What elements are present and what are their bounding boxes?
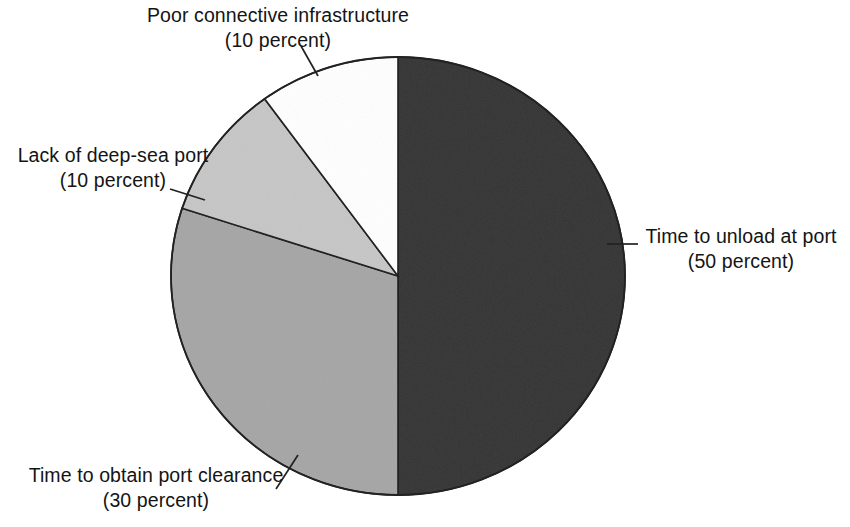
callout-time-to-unload-at-port: Time to unload at port (50 percent): [635, 224, 847, 275]
callout-value-lack-of-deep-sea-port: (10 percent): [2, 168, 224, 193]
pie-chart-figure: Poor connective infrastructure (10 perce…: [0, 0, 850, 527]
callout-poor-connective-infrastructure: Poor connective infrastructure (10 perce…: [108, 3, 448, 54]
callout-time-to-obtain-port-clearance: Time to obtain port clearance (30 percen…: [4, 463, 308, 514]
callout-label-time-to-obtain-port-clearance: Time to obtain port clearance: [4, 463, 308, 488]
callout-value-poor-connective-infrastructure: (10 percent): [108, 28, 448, 53]
callout-label-time-to-unload-at-port: Time to unload at port: [635, 224, 847, 249]
callout-lack-of-deep-sea-port: Lack of deep-sea port (10 percent): [2, 143, 224, 194]
callout-value-time-to-obtain-port-clearance: (30 percent): [4, 488, 308, 513]
callout-value-time-to-unload-at-port: (50 percent): [635, 249, 847, 274]
pie-slices-group: [171, 57, 625, 495]
callout-label-lack-of-deep-sea-port: Lack of deep-sea port: [2, 143, 224, 168]
pie-slice-time-to-unload-at-port[interactable]: [398, 57, 625, 495]
callout-label-poor-connective-infrastructure: Poor connective infrastructure: [108, 3, 448, 28]
